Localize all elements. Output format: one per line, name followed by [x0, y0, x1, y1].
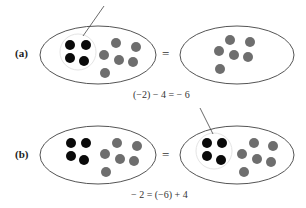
gray-dots-b-left [100, 138, 142, 177]
panel-a-equation: (−2) − 4 = − 6 [133, 89, 190, 100]
gray-dots-a-right [214, 35, 255, 74]
panel-b-equals: = [162, 147, 169, 163]
gray-dots-b-right [237, 138, 278, 177]
diagram-canvas [0, 0, 306, 208]
panel-b-equation: − 2 = (−6) + 4 [131, 189, 188, 200]
black-dots-a-left [65, 40, 91, 66]
set-b-right-ellipse [180, 126, 294, 184]
set-b-left-ellipse [40, 126, 156, 184]
black-dots-b-right [202, 138, 227, 165]
panel-a-equals: = [162, 46, 169, 62]
set-a-left-ellipse [40, 26, 156, 84]
set-b-right-group-circle [196, 133, 232, 169]
pointer-line-a [83, 6, 104, 36]
set-a-left-group-circle [60, 34, 96, 70]
panel-a-label: (a) [15, 47, 28, 59]
gray-dots-a-left [99, 38, 141, 78]
panel-b-label: (b) [15, 148, 28, 160]
black-dots-b-left [66, 138, 91, 165]
